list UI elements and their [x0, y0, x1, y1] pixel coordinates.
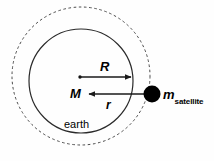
orbit-radius-label: r	[106, 99, 111, 111]
radius-earth-label: R	[100, 60, 109, 73]
satellite-dot	[144, 86, 161, 103]
satellite-mass-label: msatellite	[163, 88, 203, 104]
earth-mass-label: M	[70, 87, 81, 100]
earth-label: earth	[64, 119, 89, 130]
diagram-canvas	[0, 0, 214, 161]
satellite-mass-subscript: satellite	[175, 97, 204, 106]
satellite-mass-symbol: m	[163, 87, 175, 102]
physics-diagram-figure: R M r earth msatellite	[0, 0, 214, 161]
